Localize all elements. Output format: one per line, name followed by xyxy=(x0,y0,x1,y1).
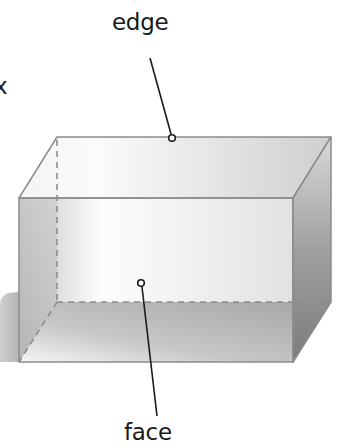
shadow xyxy=(0,292,19,362)
face-pointer-dot xyxy=(138,280,145,287)
prism-figure xyxy=(0,0,341,448)
partial-label-left: x xyxy=(0,75,7,98)
edge-pointer-dot xyxy=(169,135,176,142)
edge-pointer-line xyxy=(150,58,171,134)
bottom-face xyxy=(19,302,331,362)
face-label: face xyxy=(124,421,172,444)
prism-diagram: edge face x xyxy=(0,0,341,448)
top-face xyxy=(19,137,331,198)
edge-label: edge xyxy=(112,11,168,34)
